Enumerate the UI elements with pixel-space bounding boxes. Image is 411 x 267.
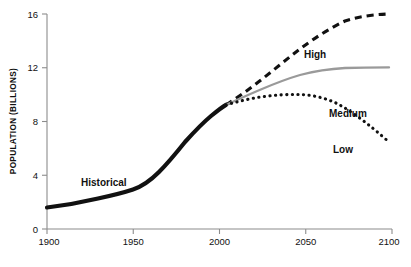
y-axis-title: POPULATION (BILLIONS) [9,68,18,174]
x-tick-label-1900: 1900 [38,236,59,247]
x-tick-label-2100: 2100 [378,236,399,247]
series-line-historical [47,105,226,208]
y-tick-label-0: 0 [33,224,38,235]
x-tick-label-2000: 2000 [209,236,230,247]
series-label-high: High [304,49,326,60]
series-label-medium: Medium [329,108,367,119]
series-label-low: Low [333,144,353,155]
y-tick-label-4: 4 [33,170,38,181]
x-tick-label-1950: 1950 [123,236,144,247]
x-tick-label-2050: 2050 [295,236,316,247]
series-label-historical: Historical [81,177,127,188]
chart-svg: 0 4 8 12 16 1900 1950 2000 2050 2100 POP… [0,0,411,267]
population-projection-chart: 0 4 8 12 16 1900 1950 2000 2050 2100 POP… [0,0,411,267]
y-tick-label-12: 12 [27,62,38,73]
y-tick-label-16: 16 [27,9,38,20]
y-tick-label-8: 8 [33,116,38,127]
